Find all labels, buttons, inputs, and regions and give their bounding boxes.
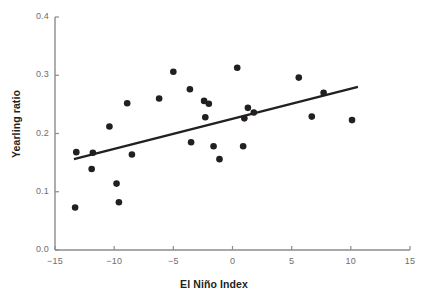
data-point: [73, 149, 80, 156]
y-axis-title: Yearling ratio: [10, 79, 22, 169]
data-point: [124, 100, 131, 107]
x-tick-label: 15: [396, 256, 424, 266]
data-point: [187, 86, 194, 93]
data-point: [349, 117, 356, 124]
data-point: [320, 89, 327, 96]
y-tick-label: 0.2: [25, 128, 49, 138]
x-tick-label: −10: [100, 256, 128, 266]
data-point: [188, 139, 195, 146]
data-point: [241, 115, 248, 122]
data-point: [90, 149, 97, 156]
data-point: [72, 204, 79, 211]
y-tick-label: 0.3: [25, 69, 49, 79]
data-point: [251, 109, 258, 116]
data-point: [308, 113, 315, 120]
data-point: [170, 68, 177, 75]
data-point: [113, 180, 120, 187]
y-tick-label: 0.4: [25, 11, 49, 21]
data-point: [116, 199, 123, 206]
data-point: [245, 105, 252, 112]
x-axis-title: El Niño Index: [0, 278, 428, 290]
data-point: [88, 166, 95, 173]
scatter-chart: −15−10−5051015 0.00.10.20.30.4 Yearling …: [0, 0, 428, 303]
data-points: [72, 64, 356, 210]
data-point: [234, 64, 241, 71]
data-point: [129, 151, 136, 158]
x-tick-label: −5: [159, 256, 187, 266]
data-point: [202, 114, 209, 121]
x-tick-label: 0: [219, 256, 247, 266]
axes-group: [55, 17, 410, 250]
data-point: [106, 123, 113, 130]
data-point: [156, 95, 163, 102]
data-point: [240, 143, 247, 150]
data-point: [210, 143, 217, 150]
x-tick-label: −15: [41, 256, 69, 266]
x-tick-label: 5: [278, 256, 306, 266]
y-tick-label: 0.1: [25, 186, 49, 196]
data-point: [206, 100, 213, 107]
data-point: [295, 74, 302, 81]
y-tick-label: 0.0: [25, 244, 49, 254]
x-tick-label: 10: [337, 256, 365, 266]
data-point: [216, 156, 223, 163]
